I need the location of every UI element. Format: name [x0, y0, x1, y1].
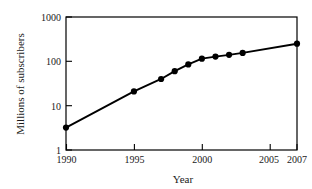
data-point-2001 [212, 53, 218, 59]
data-point-1990 [63, 125, 69, 131]
data-point-2000 [199, 56, 205, 62]
x-tick-label-2000: 2000 [192, 154, 212, 165]
data-point-1998 [172, 68, 178, 74]
y-tick-label-1000: 1000 [41, 12, 61, 23]
x-tick-label-2007: 2007 [287, 154, 307, 165]
data-point-1999 [185, 61, 191, 67]
chart-figure: 1000 100 10 1 1990 1995 2000 2005 2007 Y… [0, 0, 312, 189]
y-axis-title: Millions of subscribers [14, 33, 26, 134]
data-point-2003 [240, 50, 246, 56]
y-tick-label-100: 100 [46, 56, 61, 67]
y-tick-label-10: 10 [51, 101, 61, 112]
data-point-2007 [294, 41, 300, 47]
data-point-1997 [158, 76, 164, 82]
x-tick-label-1995: 1995 [124, 154, 144, 165]
data-point-1995 [131, 88, 137, 94]
x-tick-label-2005: 2005 [259, 154, 279, 165]
x-tick-label-1990: 1990 [57, 154, 77, 165]
subscribers-line-chart: 1000 100 10 1 1990 1995 2000 2005 2007 Y… [0, 0, 312, 189]
x-axis-title: Year [173, 173, 194, 185]
data-point-2002 [226, 52, 232, 58]
